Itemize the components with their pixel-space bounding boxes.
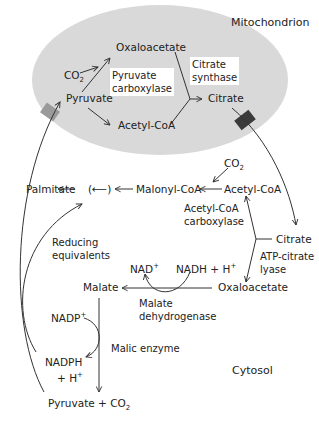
malonyl-coa: Malonyl-CoA [136,183,201,196]
malate: Malate [83,281,118,294]
nadph: NADPH+ H+ [45,356,83,385]
cyto-acetyl-coa: Acetyl-CoA [224,183,281,196]
acetyl-coa-carboxylase-label: Acetyl-CoAcarboxylase [184,202,244,228]
mito-oxaloacetate: Oxaloacetate [116,41,186,54]
malic-enzyme-label: Malic enzyme [111,342,180,355]
malate-dehydrogenase-label: Malatedehydrogenase [139,297,216,323]
mito-co2: CO2 [64,69,84,87]
mito-pyruvate: Pyruvate [66,92,113,105]
repeat-cycle: (⟵) [88,183,111,196]
mitochondrion-label: Mitochondrion [231,16,310,29]
reducing-equivalents-label: Reducingequivalents [52,236,110,262]
palmitate: Palmitate [26,183,76,196]
cyto-citrate: Citrate [276,233,312,246]
mito-acetyl-coa: Acetyl-CoA [118,119,175,132]
cyto-oxaloacetate: Oxaloacetate [218,281,288,294]
nadh: NADH + H+ [176,260,236,276]
cytosol-label: Cytosol [232,364,273,377]
mito-citrate: Citrate [208,92,244,105]
citrate-synthase-label: Citratesynthase [190,57,239,85]
nadp-plus: NADP+ [51,309,86,325]
pyruvate-co2: Pyruvate + CO2 [48,397,130,415]
pyruvate-carboxylase-label: Pyruvatecarboxylase [110,68,174,96]
nad-plus: NAD+ [130,260,159,276]
cyto-co2: CO2 [224,157,244,175]
atp-citrate-lyase-label: ATP-citratelyase [260,250,314,276]
